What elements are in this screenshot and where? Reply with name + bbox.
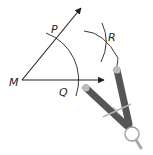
arc-r (101, 23, 106, 62)
compass-construction-diagram: M P Q R (0, 0, 153, 155)
ray-mp (22, 8, 81, 80)
compass-icon (83, 58, 142, 148)
label-r: R (108, 31, 116, 44)
label-m: M (9, 76, 19, 89)
label-q: Q (59, 86, 68, 99)
label-p: P (51, 23, 58, 36)
